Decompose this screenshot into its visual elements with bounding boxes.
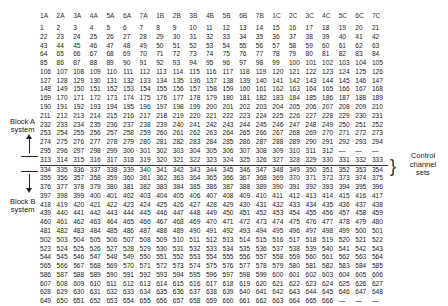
channel-cell: 57 bbox=[272, 42, 289, 51]
channel-cell: 538 bbox=[289, 245, 306, 254]
channel-cell: 373 bbox=[339, 174, 356, 183]
channel-cell: 349 bbox=[289, 165, 306, 174]
channel-cell: 89 bbox=[106, 59, 123, 68]
channel-cell: 589 bbox=[90, 271, 107, 280]
channel-cell: 258 bbox=[123, 129, 140, 138]
channel-cell: 525 bbox=[73, 245, 90, 254]
channel-cell: 12 bbox=[223, 24, 240, 33]
channel-cell: 554 bbox=[206, 253, 223, 262]
channel-cell: 578 bbox=[256, 262, 273, 271]
channel-cell: 142 bbox=[289, 77, 306, 86]
channel-cell: 456 bbox=[322, 209, 339, 218]
channel-cell: 175 bbox=[140, 94, 157, 103]
channel-cell: 203 bbox=[256, 103, 273, 112]
block-a-label: Block A system bbox=[10, 118, 35, 134]
channel-cell: 293 bbox=[355, 138, 372, 147]
channel-cell: 73 bbox=[189, 50, 206, 59]
table-row: 6076086096106116126136146156166176186196… bbox=[40, 280, 388, 289]
channel-cell: 81 bbox=[322, 50, 339, 59]
channel-cell: 148 bbox=[40, 85, 57, 94]
channel-cell: 628 bbox=[40, 288, 57, 297]
channel-cell: 212 bbox=[57, 112, 74, 121]
channel-cell: 585 bbox=[372, 262, 389, 271]
channel-cell: 342 bbox=[173, 165, 190, 174]
channel-cell: 18 bbox=[322, 24, 339, 33]
channel-cell: 118 bbox=[239, 68, 256, 77]
channel-cell: 565 bbox=[40, 262, 57, 271]
channel-cell: 608 bbox=[57, 280, 74, 289]
channel-cell: 498 bbox=[322, 227, 339, 236]
channel-cell: 133 bbox=[140, 77, 157, 86]
channel-cell: 113 bbox=[156, 68, 173, 77]
channel-cell: 250 bbox=[339, 121, 356, 130]
channel-cell: 522 bbox=[372, 236, 389, 245]
channel-cell: 120 bbox=[272, 68, 289, 77]
channel-cell: 599 bbox=[256, 271, 273, 280]
channel-cell: 619 bbox=[239, 280, 256, 289]
channel-cell: 124 bbox=[339, 68, 356, 77]
channel-cell: 445 bbox=[140, 209, 157, 218]
channel-cell: 597 bbox=[223, 271, 240, 280]
channel-cell: 9 bbox=[173, 24, 190, 33]
channel-cell: 39 bbox=[322, 33, 339, 42]
channel-cell: 622 bbox=[289, 280, 306, 289]
channel-cell: 117 bbox=[223, 68, 240, 77]
table-row: 3973983994004014024034044054064074084094… bbox=[40, 192, 388, 201]
channel-cell: 591 bbox=[123, 271, 140, 280]
channel-cell: 230 bbox=[355, 112, 372, 121]
channel-cell: 14 bbox=[256, 24, 273, 33]
column-header: 4B bbox=[206, 8, 223, 24]
channel-cell: 351 bbox=[322, 165, 339, 174]
channel-cell: 45 bbox=[73, 42, 90, 51]
channel-cell: 62 bbox=[355, 42, 372, 51]
channel-cell: 160 bbox=[239, 85, 256, 94]
channel-cell: 465 bbox=[123, 218, 140, 227]
channel-cell: 131 bbox=[106, 77, 123, 86]
channel-cell: 602 bbox=[306, 271, 323, 280]
channel-cell: 168 bbox=[372, 85, 389, 94]
arrow-up-icon bbox=[29, 137, 30, 153]
channel-cell: 123 bbox=[322, 68, 339, 77]
channel-cell: 271 bbox=[339, 129, 356, 138]
channel-cell: 347 bbox=[256, 165, 273, 174]
channel-cell: 138 bbox=[223, 77, 240, 86]
channel-cell: 27 bbox=[123, 33, 140, 42]
channel-cell: 607 bbox=[40, 280, 57, 289]
channel-cell: 2 bbox=[57, 24, 74, 33]
channel-cell: 51 bbox=[173, 42, 190, 51]
channel-cell: 489 bbox=[173, 227, 190, 236]
channel-cell: 644 bbox=[306, 288, 323, 297]
channel-cell: 140 bbox=[256, 77, 273, 86]
channel-cell: 485 bbox=[106, 227, 123, 236]
channel-cell: 252 bbox=[372, 121, 389, 130]
channel-cell: 665 bbox=[306, 297, 323, 306]
channel-cell: 603 bbox=[322, 271, 339, 280]
column-header: 7A bbox=[140, 8, 157, 24]
channel-cell: 200 bbox=[206, 103, 223, 112]
channel-cell: 299 bbox=[106, 147, 123, 156]
table-row: 123456789101112131415161718192021 bbox=[40, 24, 388, 33]
table-row: 6465666768697071727374757677787980818283… bbox=[40, 50, 388, 59]
channel-cell: 261 bbox=[173, 129, 190, 138]
channel-cell: 378 bbox=[73, 183, 90, 192]
control-channel-sets-label: Control channel sets bbox=[400, 152, 446, 178]
channel-cell: 329 bbox=[306, 156, 323, 165]
channel-cell: 317 bbox=[106, 156, 123, 165]
channel-cell: 52 bbox=[189, 42, 206, 51]
channel-cell: 509 bbox=[156, 236, 173, 245]
channel-cell: 534 bbox=[223, 245, 240, 254]
channel-cell: 412 bbox=[289, 192, 306, 201]
column-header: 3C bbox=[306, 8, 323, 24]
channel-cell: 435 bbox=[322, 201, 339, 210]
channel-cell: 219 bbox=[173, 112, 190, 121]
channel-cell: 156 bbox=[173, 85, 190, 94]
channel-cell: 280 bbox=[140, 138, 157, 147]
channel-cell: 75 bbox=[223, 50, 240, 59]
channel-cell: 615 bbox=[173, 280, 190, 289]
channel-cell: 298 bbox=[90, 147, 107, 156]
channel-cell: 583 bbox=[339, 262, 356, 271]
channel-cell: 244 bbox=[239, 121, 256, 130]
divider-tick-bottom bbox=[21, 171, 38, 172]
column-header: 6B bbox=[239, 8, 256, 24]
channel-cell: 166 bbox=[339, 85, 356, 94]
